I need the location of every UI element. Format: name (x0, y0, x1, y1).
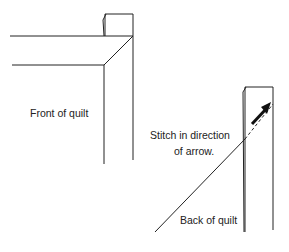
front-of-quilt-label: Front of quilt (30, 107, 88, 119)
stitch-instruction-line2: of arrow. (174, 145, 214, 157)
back-of-quilt-label: Back of quilt (180, 214, 237, 226)
front-figure (10, 14, 133, 164)
diagram-lines (0, 0, 289, 252)
stitch-instruction-line1: Stitch in direction (150, 129, 230, 141)
stitch-direction-arrow-icon (252, 102, 271, 124)
back-figure (155, 87, 273, 232)
quilt-binding-diagram: Front of quilt Stitch in direction of ar… (0, 0, 289, 252)
